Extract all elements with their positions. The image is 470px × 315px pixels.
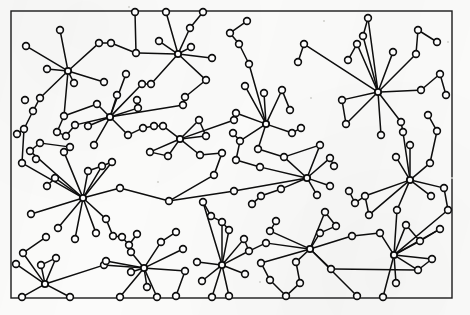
graph-edge (261, 150, 282, 156)
graph-edge (349, 46, 355, 57)
graph-node (125, 132, 132, 139)
graph-node (19, 294, 26, 301)
graph-node (233, 110, 240, 117)
graph-node (354, 41, 361, 48)
graph-node (103, 258, 110, 265)
graph-node (188, 44, 195, 51)
graph-node (63, 133, 70, 140)
graph-node (317, 230, 324, 237)
graph-node (242, 83, 249, 90)
graph-hub-node (42, 281, 48, 287)
plot-border (11, 11, 452, 298)
graph-node (287, 107, 294, 114)
graph-node (27, 148, 34, 155)
graph-node (437, 71, 444, 78)
graph-edge (445, 191, 448, 208)
graph-node (180, 246, 187, 253)
graph-edge (327, 214, 335, 224)
graph-node (394, 207, 401, 214)
graph-edge (61, 33, 68, 69)
graph-node (156, 38, 163, 45)
graph-node (160, 123, 167, 130)
graph-edge (378, 95, 381, 133)
graph-node (94, 101, 101, 108)
graph-node (417, 238, 424, 245)
graph-hub-node (141, 265, 147, 271)
graph-node (53, 255, 60, 262)
graph-edge (57, 180, 81, 197)
graph-node (165, 153, 172, 160)
graph-edge (133, 254, 143, 266)
graph-node (257, 164, 264, 171)
graph-node (413, 51, 420, 58)
graph-edge (264, 190, 279, 195)
graph-edge (396, 256, 415, 268)
graph-node (200, 9, 207, 16)
graph-edge (441, 77, 445, 93)
graph-edge (25, 239, 43, 252)
graph-node (132, 9, 139, 16)
graph-node (349, 233, 356, 240)
graph-node (231, 188, 238, 195)
graph-node (434, 39, 441, 46)
graph-edge (283, 93, 289, 108)
graph-node (33, 156, 40, 163)
graph-node (91, 142, 98, 149)
graph-node (103, 216, 110, 223)
graph-edge (312, 251, 355, 294)
graph-node (44, 183, 51, 190)
graph-node (377, 230, 384, 237)
graph-node (37, 140, 44, 147)
graph-node (322, 209, 329, 216)
graph-node (237, 138, 244, 145)
graph-node (158, 239, 165, 246)
graph-edge (107, 222, 112, 234)
graph-edge (382, 235, 393, 252)
graph-node (445, 207, 452, 214)
graph-node (109, 159, 116, 166)
graph-node (200, 199, 207, 206)
graph-node (22, 97, 29, 104)
graph-node (144, 284, 151, 291)
edge-layer (18, 14, 447, 296)
graph-node (380, 294, 387, 301)
graph-edge (267, 93, 281, 122)
graph-edge (153, 153, 166, 156)
graph-node (398, 119, 405, 126)
graph-node (231, 117, 238, 124)
graph-edge (242, 125, 263, 139)
graph-node (427, 160, 434, 167)
graph-edge (139, 53, 176, 54)
graph-node (390, 49, 397, 56)
graph-node (352, 200, 359, 207)
graph-edge (99, 106, 108, 115)
graph-edge (408, 227, 418, 239)
graph-node (301, 41, 308, 48)
graph-node (227, 30, 234, 37)
graph-edge (323, 227, 334, 232)
graph-edge (153, 140, 178, 151)
graph-edge (34, 199, 81, 213)
graph-node (429, 256, 436, 263)
graph-node (403, 222, 410, 229)
graph-hub-node (304, 175, 310, 181)
graph-edge (147, 268, 183, 271)
graph-node (151, 123, 158, 130)
graph-node (242, 271, 249, 278)
graph-node (134, 97, 141, 104)
graph-edge (268, 125, 289, 132)
graph-node (52, 175, 59, 182)
graph-edge (364, 21, 368, 34)
graph-node (135, 105, 142, 112)
graph-edge (259, 126, 265, 146)
graph-edge (47, 266, 101, 283)
graph-node (298, 125, 305, 132)
graph-edge (44, 259, 54, 264)
graph-node (38, 262, 45, 269)
graph-edge (288, 285, 298, 294)
graph-edge (200, 262, 220, 264)
graph-node (327, 183, 334, 190)
graph-node (114, 92, 121, 99)
graph-node (21, 126, 28, 133)
graph-node (194, 259, 201, 266)
